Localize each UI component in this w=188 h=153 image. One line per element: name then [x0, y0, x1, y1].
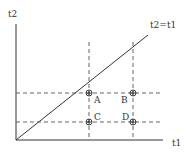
point-d-label: D [122, 112, 129, 122]
x-axis-label: t1 [172, 138, 181, 148]
diagonal-label: t2=t1 [150, 20, 176, 30]
point-c-label: C [94, 112, 101, 122]
point-b-label: B [121, 95, 128, 105]
point-a-label: A [93, 95, 101, 105]
y-axis-label: t2 [8, 9, 17, 19]
diagram-canvas: t2 t1 t2=t1 A B C D [0, 0, 188, 153]
diagonal-line [16, 35, 148, 140]
